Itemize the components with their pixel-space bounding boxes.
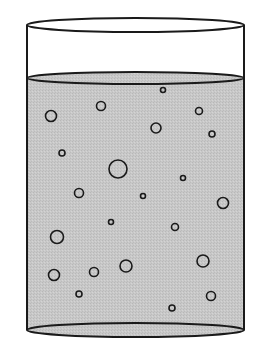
diagram-canvas — [0, 0, 256, 352]
cylinder-diagram — [0, 0, 256, 352]
top-rim — [27, 18, 244, 32]
liquid-fill — [27, 72, 244, 337]
liquid-body — [27, 72, 244, 337]
